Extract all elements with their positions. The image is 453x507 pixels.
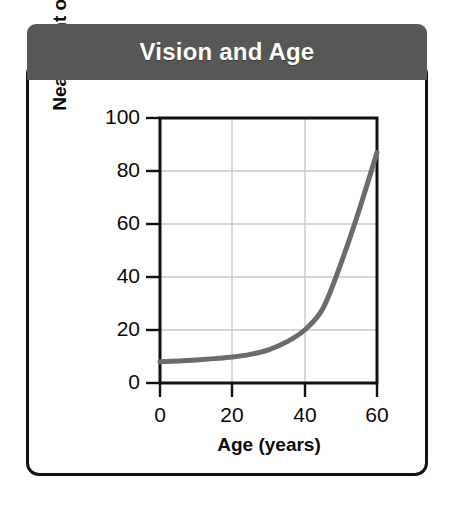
y-tick-label-60: 60 (94, 212, 140, 233)
x-tick-label-60: 60 (347, 404, 407, 425)
y-tick-marks (146, 118, 160, 383)
gridlines-vertical (232, 118, 305, 383)
y-tick-label-0: 0 (94, 371, 140, 392)
chart-title-bar: Vision and Age (27, 24, 427, 80)
x-tick-label-0: 0 (130, 404, 190, 425)
y-tick-label-100: 100 (94, 106, 140, 127)
x-tick-label-20: 20 (202, 404, 262, 425)
y-tick-label-20: 20 (94, 318, 140, 339)
y-tick-label-80: 80 (94, 159, 140, 180)
y-tick-label-40: 40 (94, 265, 140, 286)
page-title: Vision and Age (140, 38, 315, 66)
figure: Vision and Age (0, 0, 453, 507)
x-tick-label-40: 40 (275, 404, 335, 425)
x-tick-marks (160, 383, 377, 397)
x-axis-title: Age (years) (160, 434, 378, 456)
